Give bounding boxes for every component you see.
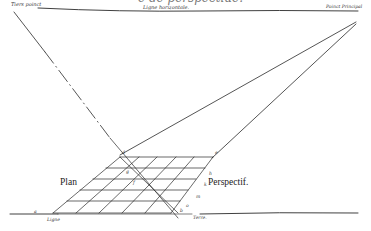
plan-label: Plan xyxy=(60,178,77,188)
point-a: a xyxy=(34,210,37,215)
diagram-lines xyxy=(0,0,371,231)
point-e: e xyxy=(215,151,218,156)
distance-line-dashed xyxy=(45,52,110,138)
point-o: o xyxy=(186,204,189,209)
tiers-point-label: Tiers poinct xyxy=(11,2,41,7)
distance-line xyxy=(14,12,45,52)
ligne-label: Ligne xyxy=(47,218,60,223)
ground-line-right xyxy=(200,213,358,214)
point-k: k xyxy=(204,183,207,188)
point-d: d xyxy=(122,151,125,156)
perspective-diagram: e de perspectiue. Tiers poinct Ligne hor… xyxy=(0,0,371,231)
point-b: b xyxy=(180,209,183,214)
horizon-line-label: Ligne horizontale. xyxy=(143,5,189,10)
principal-point-label: Poinct Principal xyxy=(326,5,362,10)
vanishing-line-upper xyxy=(120,22,356,155)
point-f: f xyxy=(133,181,135,186)
terre-label: Terre. xyxy=(193,216,207,221)
horizon-line xyxy=(38,8,358,11)
point-m: m xyxy=(196,195,200,200)
distance-line-lower xyxy=(110,138,178,218)
perspectif-label: Perspectif. xyxy=(208,178,248,188)
point-g: g xyxy=(126,170,129,175)
point-h: h xyxy=(209,172,212,177)
